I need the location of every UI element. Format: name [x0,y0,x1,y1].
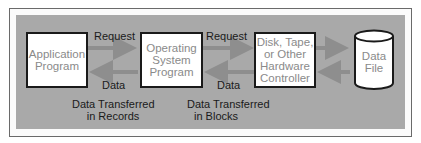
node-label: Disk, Tape, [257,36,314,48]
node-label: System [146,54,197,66]
node-label: Application [29,48,85,60]
caption-line: Data Transferred [72,98,154,110]
node-label: Program [29,60,85,72]
node-application-program: ApplicationProgram [26,32,88,88]
node-label: Data [353,50,395,62]
edge-label-data-1: Data [102,79,125,91]
caption-line: in Records [72,110,154,122]
node-label: Controller [257,72,314,84]
node-label: File [353,62,395,74]
node-label: or Other [257,48,314,60]
caption-records: Data Transferred in Records [72,98,154,122]
caption-line: in Blocks [187,110,269,122]
node-operating-system-program: OperatingSystemProgram [140,32,203,88]
edge-label-data-2: Data [217,79,240,91]
node-label: Program [146,66,197,78]
caption-line: Data Transferred [187,98,269,110]
caption-blocks: Data Transferred in Blocks [187,98,269,122]
node-hardware-controller: Disk, Tape,or OtherHardwareController [254,32,316,88]
node-label: Operating [146,42,197,54]
node-data-file-label: Data File [353,50,395,74]
edge-label-request-2: Request [206,30,247,42]
edge-label-request-1: Request [94,30,135,42]
node-label: Hardware [257,60,314,72]
